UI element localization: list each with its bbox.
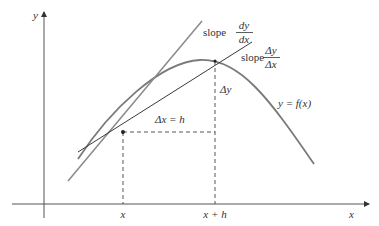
delta-y-label: Δy	[219, 83, 231, 95]
curve-label: y = f(x)	[277, 97, 311, 110]
x-tick-label: x	[120, 208, 126, 220]
y-axis-label: y	[32, 9, 38, 21]
tangent-slope-prefix: slope	[203, 26, 226, 38]
tangent-slope-numerator: dy	[239, 19, 250, 31]
tangent-line	[68, 21, 202, 181]
secant-line	[78, 42, 252, 152]
point-x	[121, 130, 125, 134]
tangent-slope-denominator: dx	[239, 33, 250, 45]
secant-slope-numerator: Δy	[264, 44, 276, 56]
x-axis-label: x	[348, 208, 354, 220]
function-curve	[78, 60, 314, 164]
tangent-slope-label: slope dy dx	[203, 19, 253, 45]
secant-slope-label: slope Δy Δx	[241, 44, 280, 70]
delta-x-label: Δx = h	[154, 113, 185, 125]
secant-slope-denominator: Δx	[264, 58, 276, 70]
x-plus-h-tick-label: x + h	[202, 208, 227, 220]
point-x-plus-h	[213, 59, 216, 62]
secant-slope-prefix: slope	[241, 51, 264, 63]
derivative-diagram: y x x x + h Δx = h Δy y = f(x) slope dy …	[0, 0, 379, 226]
